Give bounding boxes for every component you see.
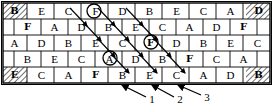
lattice-grid-figure: B E C F D B E C A D F A D B E C A D F A … [0, 0, 273, 112]
grid-drawing [0, 0, 273, 112]
grid-frame [2, 2, 272, 85]
diagonal-path-arrows [70, 8, 185, 73]
hatched-cells [3, 3, 270, 83]
circled-cell-f-row3 [144, 35, 158, 49]
callout-label-2: 2 [174, 93, 186, 105]
callout-label-1: 1 [146, 93, 158, 105]
callout-arrow-1 [122, 85, 146, 97]
circled-cell-f-row1 [87, 4, 101, 18]
callout-label-3: 3 [201, 91, 213, 103]
grid-vertical-lines [14, 3, 257, 83]
callout-arrows [122, 85, 201, 97]
